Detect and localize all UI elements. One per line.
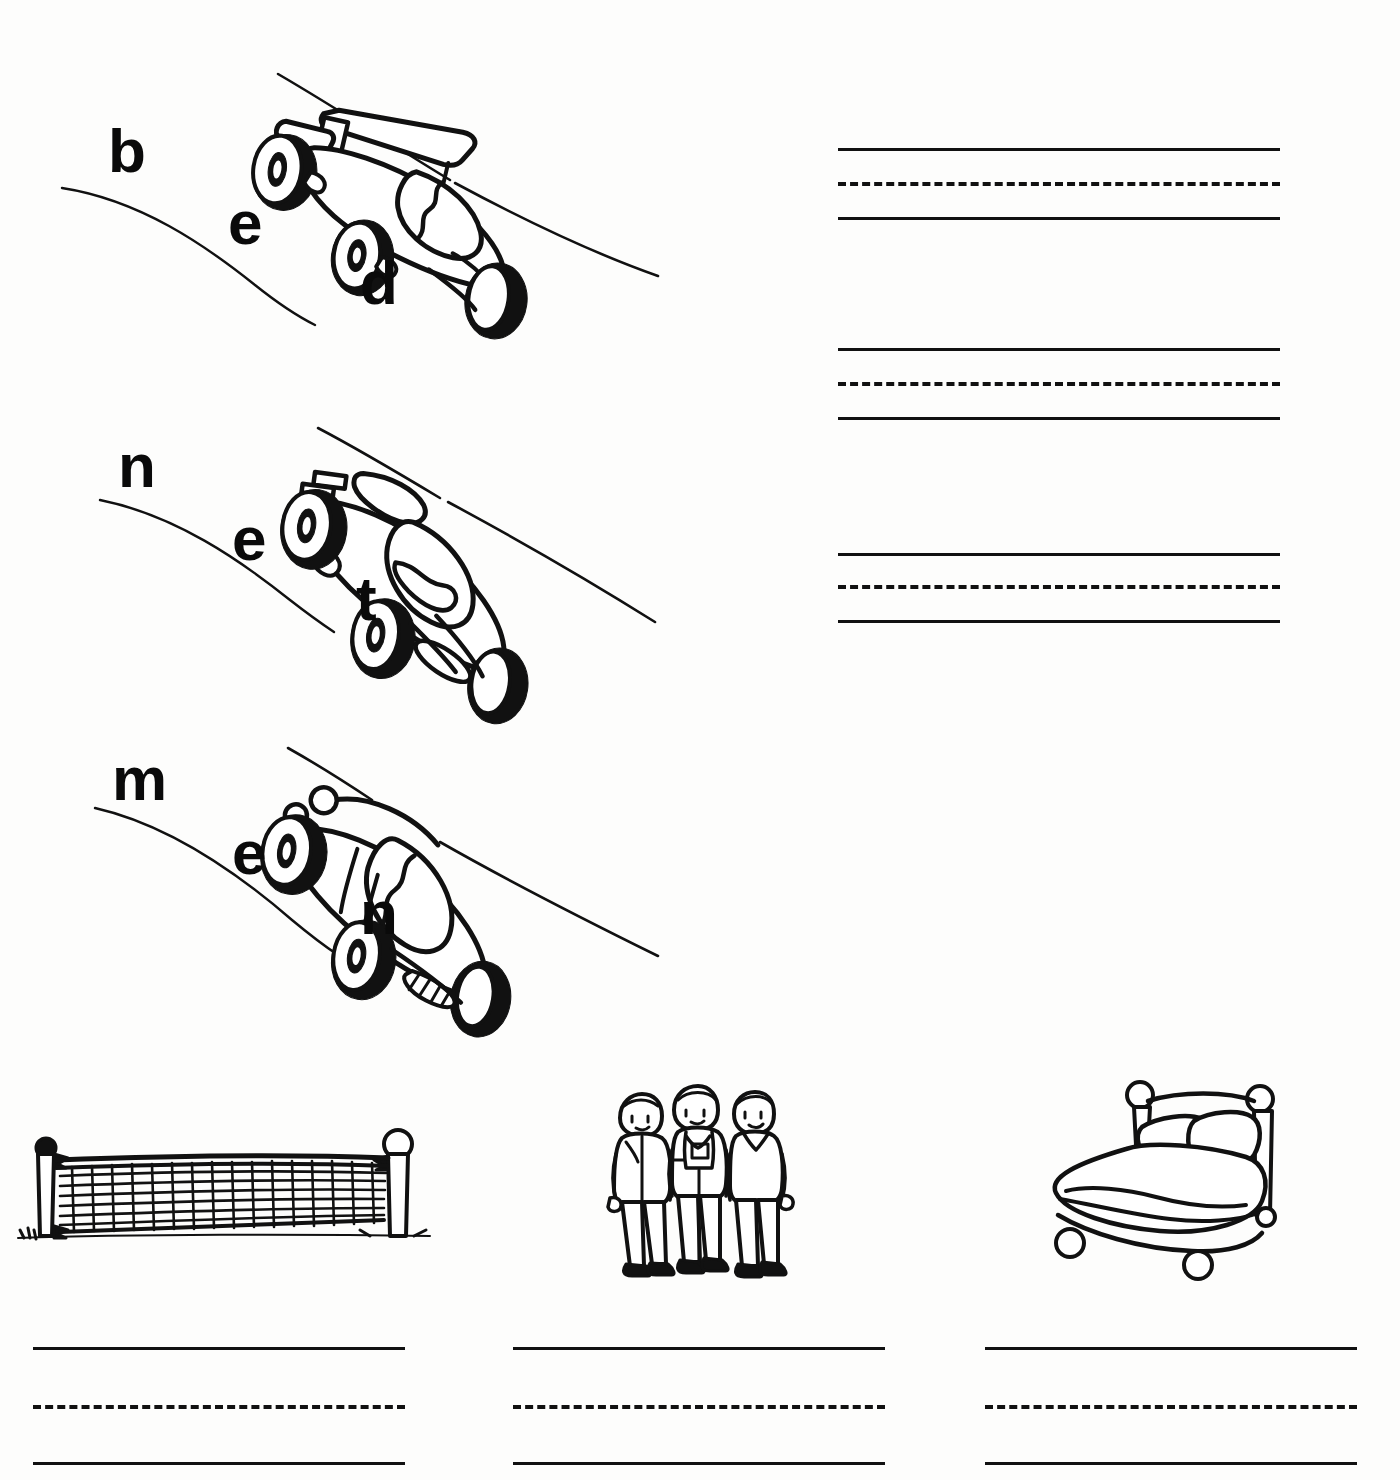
word-letter: d bbox=[360, 252, 397, 314]
writing-lines-bed[interactable] bbox=[838, 148, 1280, 220]
writing-lines-bottom-men[interactable] bbox=[513, 1347, 885, 1465]
word-building-row-net: n e t bbox=[0, 310, 700, 610]
writing-line-top bbox=[838, 348, 1280, 351]
writing-line-middle bbox=[838, 585, 1280, 589]
bed-icon bbox=[1030, 1075, 1305, 1290]
picture-cell-bed bbox=[1030, 1075, 1305, 1290]
writing-line-top bbox=[513, 1347, 885, 1350]
word-letter: e bbox=[232, 822, 265, 884]
three-men-icon bbox=[592, 1080, 802, 1285]
writing-line-top bbox=[838, 553, 1280, 556]
word-building-row-bed: b e d bbox=[0, 0, 700, 300]
writing-lines-bottom-net[interactable] bbox=[33, 1347, 405, 1465]
writing-line-bottom bbox=[838, 217, 1280, 220]
writing-line-bottom bbox=[838, 417, 1280, 420]
word-letter: b bbox=[108, 120, 145, 182]
writing-line-bottom bbox=[985, 1462, 1357, 1465]
word-letter: e bbox=[232, 508, 265, 570]
writing-line-bottom bbox=[838, 620, 1280, 623]
worksheet-page: b e d bbox=[0, 0, 1400, 1480]
writing-lines-bottom-bed[interactable] bbox=[985, 1347, 1357, 1465]
word-letter: e bbox=[228, 192, 261, 254]
race-car-scene-3 bbox=[0, 620, 700, 920]
word-letter: n bbox=[118, 435, 155, 497]
writing-line-middle bbox=[33, 1405, 405, 1409]
writing-lines-men[interactable] bbox=[838, 553, 1280, 623]
writing-line-middle bbox=[838, 182, 1280, 186]
writing-line-top bbox=[838, 148, 1280, 151]
writing-lines-net[interactable] bbox=[838, 348, 1280, 420]
writing-line-bottom bbox=[513, 1462, 885, 1465]
writing-line-bottom bbox=[33, 1462, 405, 1465]
writing-line-top bbox=[985, 1347, 1357, 1350]
volleyball-net-icon bbox=[10, 1110, 440, 1270]
writing-line-middle bbox=[838, 382, 1280, 386]
race-car-scene-1 bbox=[0, 0, 700, 300]
writing-line-middle bbox=[513, 1405, 885, 1409]
writing-line-top bbox=[33, 1347, 405, 1350]
picture-cell-net bbox=[10, 1110, 440, 1270]
word-letter: n bbox=[360, 882, 397, 944]
word-building-row-men: m e n bbox=[0, 620, 700, 920]
word-letter: m bbox=[112, 748, 166, 810]
race-car-scene-2 bbox=[0, 310, 700, 610]
picture-cell-men bbox=[592, 1080, 802, 1285]
writing-line-middle bbox=[985, 1405, 1357, 1409]
